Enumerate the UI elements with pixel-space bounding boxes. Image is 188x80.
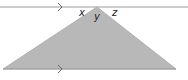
angle-label-z: z [111,7,118,18]
angle-label-x: x [78,7,85,18]
angle-label-y: y [93,11,101,22]
triangle [3,7,176,69]
diagram: x y z [0,0,188,80]
